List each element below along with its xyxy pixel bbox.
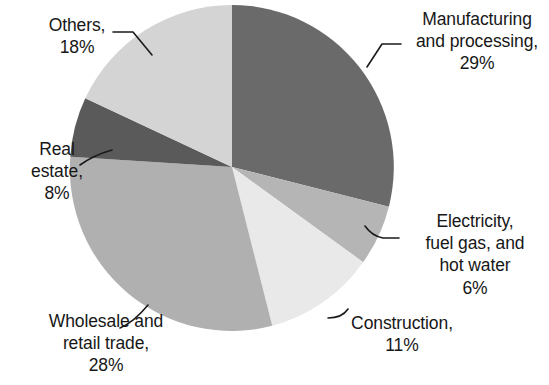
pie-label-others: Others, 18% bbox=[12, 14, 142, 58]
pie-label-real-estate: Real estate, 8% bbox=[2, 138, 112, 205]
pie-label-construction: Construction, 11% bbox=[330, 312, 474, 356]
pie-label-wholesale: Wholesale and retail trade, 28% bbox=[8, 310, 204, 377]
pie-chart-figure: Manufacturing and processing, 29% Electr… bbox=[0, 0, 549, 385]
pie-label-electricity: Electricity, fuel gas, and hot water 6% bbox=[404, 210, 546, 299]
pie-label-manufacturing: Manufacturing and processing, 29% bbox=[408, 8, 546, 75]
leader-line-manufacturing bbox=[367, 44, 401, 67]
